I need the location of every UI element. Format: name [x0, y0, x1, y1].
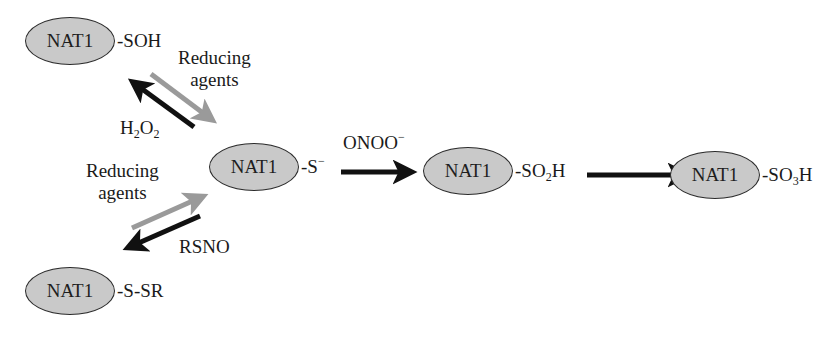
- node-nat1-soh: NAT1 -SOH: [25, 17, 161, 65]
- label-h2o2: H2O2: [120, 117, 159, 139]
- thiolate-group: -S−: [301, 156, 325, 178]
- label-rsno: RSNO: [179, 236, 230, 258]
- nat1-ellipse: NAT1: [25, 17, 115, 65]
- nat1-ellipse: NAT1: [423, 147, 513, 195]
- label-onoo: ONOO−: [343, 132, 405, 154]
- ssr-group: -S-SR: [117, 280, 163, 302]
- node-nat1-so3h: NAT1 -SO3H: [670, 151, 812, 199]
- nat1-ellipse: NAT1: [209, 143, 299, 191]
- label-reducing-agents-top: Reducing agents: [178, 47, 251, 91]
- node-nat1-so2h: NAT1 -SO2H: [423, 147, 565, 195]
- so2h-group: -SO2H: [515, 160, 565, 182]
- node-nat1-ssr: NAT1 -S-SR: [25, 267, 163, 315]
- label-reducing-agents-bottom: Reducing agents: [86, 160, 159, 204]
- so3h-group: -SO3H: [762, 164, 812, 186]
- soh-group: -SOH: [117, 30, 161, 52]
- node-nat1-thiolate: NAT1 -S−: [209, 143, 325, 191]
- nat1-ellipse: NAT1: [25, 267, 115, 315]
- nat1-ellipse: NAT1: [670, 151, 760, 199]
